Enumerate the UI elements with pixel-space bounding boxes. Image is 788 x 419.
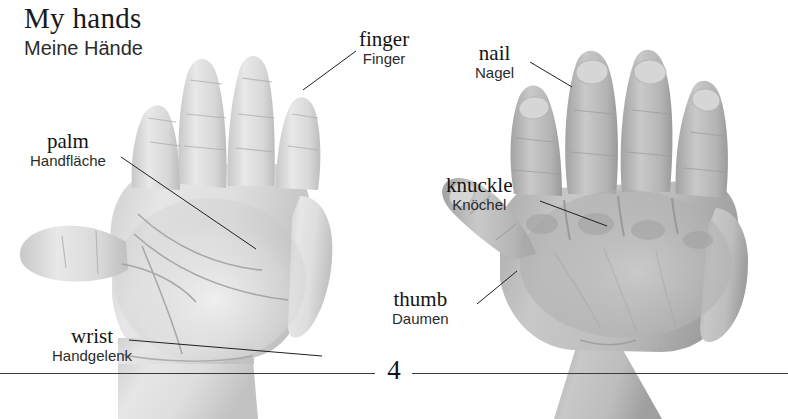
label-finger-german: Finger xyxy=(359,50,409,67)
label-knuckle-german: Knöchel xyxy=(446,196,512,213)
label-wrist: wrist Handgelenk xyxy=(52,325,132,364)
label-thumb-english: thumb xyxy=(392,288,449,310)
footer-rule-right xyxy=(412,373,788,374)
page-spread: My hands Meine Hände finger Finger nail … xyxy=(0,0,788,419)
label-nail: nail Nagel xyxy=(475,42,514,81)
label-nail-english: nail xyxy=(475,42,514,64)
label-wrist-german: Handgelenk xyxy=(52,347,132,364)
label-wrist-english: wrist xyxy=(52,325,132,347)
footer-rule-left xyxy=(0,373,375,374)
label-knuckle: knuckle Knöchel xyxy=(446,174,512,213)
label-finger-english: finger xyxy=(359,28,409,50)
label-thumb: thumb Daumen xyxy=(392,288,449,327)
right-hand-back-photo xyxy=(404,28,788,419)
label-palm: palm Handfläche xyxy=(30,130,106,169)
label-finger: finger Finger xyxy=(359,28,409,67)
label-knuckle-english: knuckle xyxy=(446,174,512,196)
page-title-german: Meine Hände xyxy=(24,37,143,60)
label-palm-english: palm xyxy=(30,130,106,152)
page-title-english: My hands xyxy=(24,2,142,35)
page-number: 4 xyxy=(375,355,413,386)
label-nail-german: Nagel xyxy=(475,64,514,81)
label-thumb-german: Daumen xyxy=(392,310,449,327)
label-palm-german: Handfläche xyxy=(30,152,106,169)
